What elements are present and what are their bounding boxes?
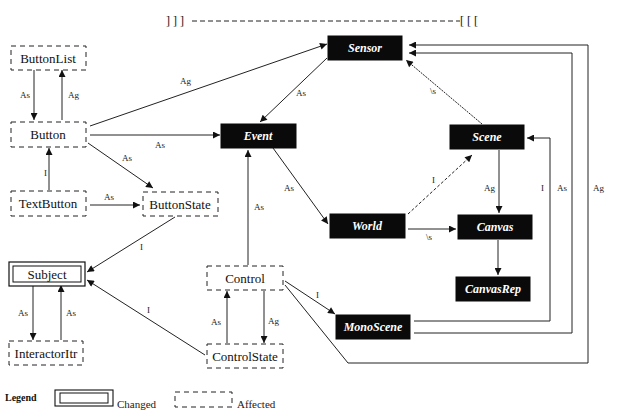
- node-event[interactable]: Event: [221, 124, 296, 148]
- edge-label: As: [296, 88, 306, 98]
- edge-label: I: [541, 183, 544, 193]
- node-label: Subject: [28, 267, 67, 282]
- legend-affected-swatch: [175, 392, 232, 407]
- node-subject[interactable]: Subject: [9, 262, 85, 286]
- node-textbutton[interactable]: TextButton: [11, 191, 86, 216]
- node-buttonlist[interactable]: ButtonList: [11, 46, 86, 70]
- legend-changed-swatch-inner: [60, 393, 108, 403]
- node-label: Canvas: [477, 220, 514, 234]
- node-world[interactable]: World: [330, 214, 405, 238]
- node-controlstate[interactable]: ControlState: [207, 344, 283, 368]
- legend: Legend Changed Affected: [5, 390, 276, 410]
- edge-event-world: [273, 148, 328, 224]
- node-buttonstate[interactable]: ButtonState: [143, 192, 218, 216]
- edge-label: As: [211, 317, 221, 327]
- edge-label: I: [432, 175, 435, 185]
- node-label: ButtonList: [20, 51, 76, 66]
- node-interactoritr[interactable]: InteractorItr: [9, 341, 83, 365]
- node-label: TextButton: [19, 196, 78, 211]
- edge-controlstate-subject: [87, 280, 205, 355]
- edge-label: As: [284, 183, 294, 193]
- node-scene[interactable]: Scene: [450, 125, 524, 149]
- edge-buttonstate-subject: [87, 217, 175, 272]
- node-monoscene[interactable]: MonoScene: [336, 315, 410, 339]
- edge-button-sensor: [90, 44, 327, 126]
- edge-label: Ag: [268, 316, 279, 326]
- edge-scene-sensor: [406, 60, 482, 124]
- edge-label: Ag: [484, 183, 495, 193]
- edge-label: As: [155, 140, 165, 150]
- dependency-diagram: ] ] ] [ [ [ As Ag Ag As As I As I As: [0, 0, 620, 414]
- edge-label: As: [18, 308, 28, 318]
- edge-sensor-event: [260, 58, 327, 122]
- edge-label: \s: [426, 232, 433, 242]
- node-label: InteractorItr: [15, 346, 78, 361]
- node-label: Sensor: [348, 41, 382, 55]
- left-brackets: ] ] ]: [166, 14, 184, 28]
- header-bar: ] ] ] [ [ [: [166, 14, 478, 28]
- edge-label: \s: [430, 86, 437, 96]
- edge-label: As: [122, 153, 132, 163]
- edge-label: I: [140, 242, 143, 252]
- node-button[interactable]: Button: [11, 122, 86, 147]
- node-label: MonoScene: [343, 320, 403, 334]
- edge-label: As: [104, 192, 114, 202]
- edge-label: Ag: [593, 183, 604, 193]
- edge-label: I: [147, 305, 150, 315]
- edge-world-scene: [408, 155, 472, 214]
- node-label: Event: [243, 129, 273, 143]
- edge-label: Ag: [68, 90, 79, 100]
- node-canvas[interactable]: Canvas: [458, 215, 532, 239]
- node-control[interactable]: Control: [207, 266, 283, 290]
- edge-label: As: [254, 202, 264, 212]
- edge-button-buttonstate: [88, 143, 153, 188]
- edge-label: I: [44, 168, 47, 178]
- node-canvasrep[interactable]: CanvasRep: [456, 277, 530, 301]
- node-label: Button: [30, 127, 66, 142]
- node-label: World: [352, 219, 383, 233]
- right-brackets: [ [ [: [460, 14, 478, 28]
- legend-affected-label: Affected: [237, 398, 276, 410]
- node-label: Scene: [472, 130, 502, 144]
- edge-label: As: [557, 183, 567, 193]
- edge-control-sensor: [285, 45, 588, 363]
- edge-label: As: [66, 308, 76, 318]
- node-label: ControlState: [212, 349, 278, 364]
- edges: As Ag Ag As As I As I As As I As: [18, 44, 604, 363]
- node-sensor[interactable]: Sensor: [328, 36, 402, 60]
- edge-control-monoscene: [285, 281, 335, 314]
- legend-changed-label: Changed: [117, 398, 157, 410]
- edge-label: As: [20, 90, 30, 100]
- node-label: Control: [225, 271, 265, 286]
- edge-label: I: [316, 290, 319, 300]
- node-label: CanvasRep: [465, 282, 521, 296]
- edge-label: Ag: [180, 76, 191, 86]
- legend-title: Legend: [5, 392, 37, 403]
- node-label: ButtonState: [149, 197, 211, 212]
